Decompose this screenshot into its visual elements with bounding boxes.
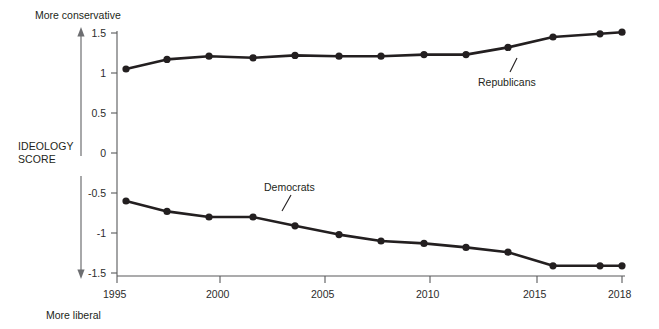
y-tick-label--1.5: -1.5 [76,267,106,279]
series-republicans-points [122,29,625,73]
x-tick-label-2005: 2005 [311,288,334,300]
y-tick-label-0: 0 [78,147,106,159]
democrats-leader-line [282,195,291,211]
x-tick-label-2015: 2015 [523,288,546,300]
axis-caption-top: More conservative [35,9,121,21]
y-axis-title-line2: SCORE [18,153,56,166]
x-tick-label-2018: 2018 [608,288,631,300]
x-tick-label-2010: 2010 [416,288,439,300]
axis-caption-bottom: More liberal [46,309,101,321]
chart-canvas [0,0,659,329]
ideology-score-chart: More conservative More liberal IDEOLOGY … [0,0,659,329]
y-tick-label-1.5: 1.5 [78,27,106,39]
series-label-democrats: Democrats [264,181,315,193]
series-democrats-points [122,197,625,269]
y-tick-label--1: -1 [76,227,106,239]
y-tick-label--0.5: -0.5 [76,187,106,199]
series-republicans [122,29,625,73]
y-tick-label-1: 1 [78,67,106,79]
y-axis-title-line1: IDEOLOGY [18,140,74,153]
series-democrats [122,195,625,269]
x-tick-label-2000: 2000 [206,288,229,300]
y-axis-ticks [111,33,117,273]
x-tick-label-1995: 1995 [103,288,126,300]
republicans-leader-line [510,58,517,72]
series-label-republicans: Republicans [478,76,536,88]
y-tick-label-0.5: 0.5 [78,107,106,119]
x-axis-ticks [117,276,622,283]
